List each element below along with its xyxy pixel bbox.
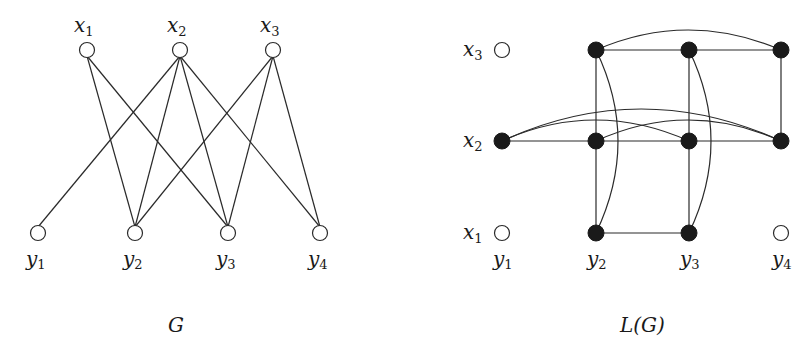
node-x1 [80, 43, 95, 58]
row-label-x3: x3 [463, 37, 483, 63]
label-y2: y2 [122, 247, 143, 272]
caption-lg: L(G) [619, 313, 665, 337]
node-y1 [31, 226, 46, 241]
label-x1: x1 [74, 13, 94, 39]
diagram-canvas: x1 x2 x3 y1 y2 y3 y4 G [0, 0, 811, 363]
graph-g-edges [38, 56, 320, 227]
node-x3y2 [588, 42, 604, 58]
edge-x1-y2 [87, 56, 135, 227]
node-y3 [221, 226, 236, 241]
col-label-y3: y3 [679, 247, 700, 272]
node-x1y2 [588, 225, 604, 241]
edge-x3-y3 [228, 56, 273, 227]
edge-x3-y4 [273, 56, 320, 227]
node-x2y4 [773, 133, 789, 149]
graph-g: x1 x2 x3 y1 y2 y3 y4 G [25, 13, 328, 337]
node-x3y3 [681, 42, 697, 58]
node-x2y3 [681, 133, 697, 149]
node-x2y1 [494, 133, 510, 149]
label-x2: x2 [167, 13, 187, 39]
col-label-y4: y4 [771, 247, 792, 272]
node-x3y1 [495, 43, 510, 58]
node-x2y2 [588, 133, 604, 149]
caption-g: G [168, 313, 184, 337]
node-x3 [266, 43, 281, 58]
label-y4: y4 [307, 247, 328, 272]
label-y1: y1 [25, 247, 46, 272]
edge-x2-y2 [135, 56, 180, 227]
node-x1y4 [774, 226, 789, 241]
node-y4 [313, 226, 328, 241]
node-x1y3 [681, 225, 697, 241]
edge-x3-y2 [135, 56, 273, 227]
row-label-x1: x1 [463, 220, 483, 246]
node-x2 [173, 43, 188, 58]
label-x3: x3 [260, 13, 280, 39]
graph-lg-edges [502, 30, 781, 233]
edge-x2-y1 [38, 56, 180, 227]
col-label-y2: y2 [586, 247, 607, 272]
col-label-y1: y1 [492, 247, 513, 272]
graph-lg: x3 x2 x1 y1 y2 y3 y4 L(G) [463, 30, 792, 337]
node-x3y4 [773, 42, 789, 58]
node-x1y1 [495, 226, 510, 241]
row-label-x2: x2 [463, 128, 483, 154]
label-y3: y3 [215, 247, 236, 272]
node-y2 [128, 226, 143, 241]
